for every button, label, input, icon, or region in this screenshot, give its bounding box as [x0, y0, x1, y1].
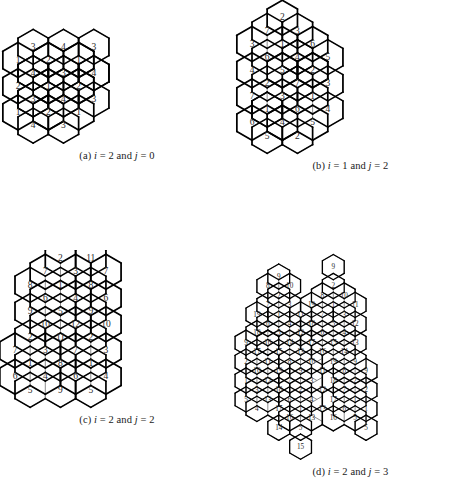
- cell-channel-label: 2: [299, 386, 303, 394]
- cell-channel-label: 6: [295, 104, 300, 114]
- cell-channel-label: 9: [88, 306, 93, 316]
- cell-channel-label: 5: [277, 329, 281, 337]
- cell-channel-label: 4: [325, 104, 330, 114]
- panel-a-caption-prefix: (a): [79, 150, 91, 161]
- cell-channel-label: 9: [28, 306, 33, 316]
- cell-channel-label: 1: [76, 55, 81, 65]
- cell-channel-label: 19: [330, 358, 338, 366]
- cell-channel-label: 4: [91, 68, 96, 78]
- cell-channel-label: 9: [332, 263, 336, 271]
- cell-channel-label: 10: [101, 319, 111, 329]
- panel-c-caption-eq2: = 2: [141, 414, 155, 425]
- cell-channel-label: 19: [308, 301, 316, 309]
- cell-channel-label: 2: [280, 12, 285, 22]
- cell-channel-label: 7: [13, 345, 18, 355]
- cell-channel-label: 8: [342, 367, 346, 375]
- cell-channel-label: 5: [364, 424, 368, 432]
- cell-channel-label: 3: [104, 345, 109, 355]
- cell-channel-label: 6: [13, 371, 18, 381]
- cell-channel-label: 3: [73, 266, 78, 276]
- hex-grid-b: 34767621521534347626215534: [234, 0, 467, 160]
- cell-channel-label: 9: [58, 385, 63, 395]
- panel-c-caption-i: i: [94, 414, 97, 425]
- panel-b-canvas: 34767621521534347626215534: [234, 0, 467, 160]
- cell-channel-label: 3: [255, 386, 259, 394]
- cell-channel-label: 16: [286, 414, 294, 422]
- cell-channel-label: 1: [46, 81, 51, 91]
- cell-channel-label: 6: [266, 320, 270, 328]
- cell-channel-label: 14: [341, 348, 349, 356]
- cell-channel-label: 1: [353, 396, 357, 404]
- cell-channel-label: 2: [16, 81, 21, 91]
- cell-channel-label: 13: [352, 339, 360, 347]
- cell-channel-label: 9: [277, 273, 281, 281]
- cell-channel-label: 8: [288, 358, 292, 366]
- cell-channel-label: 2: [332, 282, 336, 290]
- cell-channel-label: 1: [88, 358, 93, 368]
- cell-channel-label: 14: [275, 424, 283, 432]
- cell-channel-label: 2: [244, 358, 248, 366]
- cell-channel-label: 10: [286, 282, 294, 290]
- cell-channel-label: 7: [295, 78, 300, 88]
- panel-c: 762159876103421511893412761189215761034 …: [0, 250, 234, 501]
- cell-channel-label: 1: [58, 280, 63, 290]
- cell-channel-label: 7: [288, 377, 292, 385]
- cell-channel-label: 12: [264, 377, 272, 385]
- cell-channel-label: 19: [253, 311, 261, 319]
- cell-channel-label: 11: [56, 332, 65, 342]
- cell-channel-label: 2: [58, 253, 63, 263]
- panel-d-caption-prefix: (d): [313, 466, 326, 477]
- cell-channel-label: 4: [310, 396, 314, 404]
- cell-channel-label: 2: [28, 332, 33, 342]
- cell-channel-label: 12: [319, 386, 327, 394]
- cell-channel-label: 4: [104, 371, 109, 381]
- panel-b-caption-eq1: = 1 and: [334, 160, 366, 171]
- panel-c-caption-prefix: (c): [79, 414, 91, 425]
- cell-channel-label: 4: [43, 371, 48, 381]
- cell-channel-label: 14: [286, 339, 294, 347]
- cell-channel-label: 2: [76, 81, 81, 91]
- cell-channel-label: 5: [332, 320, 336, 328]
- cell-channel-label: 4: [61, 94, 66, 104]
- cell-channel-label: 8: [58, 358, 63, 368]
- cell-channel-label: 3: [31, 42, 36, 52]
- cell-channel-label: 3: [295, 26, 300, 36]
- cell-channel-label: 3: [61, 68, 66, 78]
- panel-a-caption-i: i: [94, 150, 97, 161]
- cell-channel-label: 10: [341, 292, 349, 300]
- cell-channel-label: 1: [310, 91, 315, 101]
- cell-channel-label: 2: [295, 131, 300, 141]
- cell-channel-label: 6: [321, 329, 325, 337]
- cell-channel-label: 4: [288, 320, 292, 328]
- cell-channel-label: 17: [253, 348, 261, 356]
- panel-b-caption-i: i: [328, 160, 331, 171]
- cell-channel-label: 1: [16, 107, 21, 117]
- cell-channel-label: 1: [265, 104, 270, 114]
- panel-a-caption-eq1: = 2 and: [100, 150, 132, 161]
- panel-d-canvas: 9215191817103487616111213921515191817141…: [234, 250, 467, 466]
- cell-channel-label: 7: [265, 26, 270, 36]
- cell-channel-label: 13: [319, 405, 327, 413]
- cell-channel-label: 19: [275, 367, 283, 375]
- cell-channel-label: 6: [43, 293, 48, 303]
- cell-channel-label: 8: [321, 292, 325, 300]
- cell-channel-label: 17: [330, 396, 338, 404]
- cell-channel-label: 3: [280, 91, 285, 101]
- cell-channel-label: 3: [91, 42, 96, 52]
- cell-channel-label: 13: [297, 348, 305, 356]
- cell-channel-label: 10: [253, 367, 261, 375]
- cell-channel-label: 15: [297, 443, 305, 451]
- cell-channel-label: 4: [31, 68, 36, 78]
- panel-b-caption: (b) i = 1 and j = 2: [313, 160, 389, 171]
- cell-channel-label: 5: [265, 131, 270, 141]
- cell-channel-label: 9: [353, 358, 357, 366]
- cell-channel-label: 4: [295, 52, 300, 62]
- panel-b-caption-j: j: [369, 160, 372, 171]
- cell-channel-label: 13: [264, 396, 272, 404]
- cell-channel-label: 9: [244, 339, 248, 347]
- cell-channel-label: 6: [288, 396, 292, 404]
- panel-d-caption-eq2: = 3: [374, 466, 388, 477]
- cell-channel-label: 16: [330, 414, 338, 422]
- cell-channel-label: 2: [88, 332, 93, 342]
- cell-channel-label: 8: [266, 282, 270, 290]
